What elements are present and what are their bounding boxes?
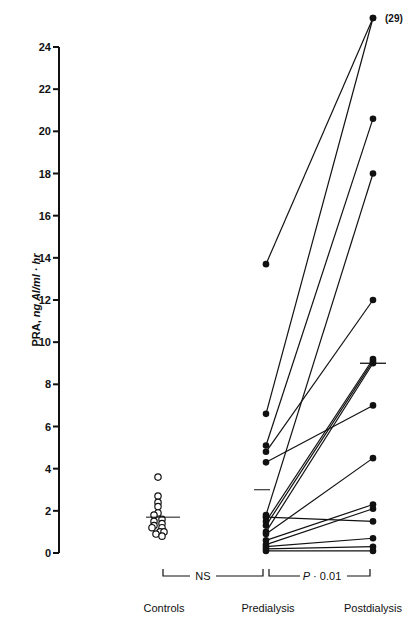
predialysis-point (263, 548, 270, 555)
predialysis-point (263, 261, 270, 268)
control-point (149, 525, 155, 531)
paired-lines (266, 18, 373, 551)
paired-line (266, 405, 373, 462)
predialysis-point (263, 411, 270, 418)
postdialysis-point (370, 505, 377, 512)
predialysis-point (263, 459, 270, 466)
paired-line (266, 300, 373, 452)
outlier-value-label: (29) (385, 13, 403, 24)
postdialysis-point (370, 15, 377, 22)
p-bracket-left (269, 569, 300, 576)
y-tick-label: 4 (45, 463, 52, 475)
y-tick-label: 24 (39, 41, 52, 53)
paired-line (266, 359, 373, 521)
postdialysis-point (370, 548, 377, 555)
predialysis-point (263, 514, 270, 521)
y-tick-label: 20 (39, 125, 51, 137)
p-bracket-right (347, 569, 370, 576)
ns-label: NS (195, 570, 210, 582)
paired-line (266, 18, 373, 414)
pra-chart: 024681012141618202224 PRA, ng AI/ml · hr… (0, 0, 413, 618)
paired-line (266, 547, 373, 549)
y-tick-label: 6 (45, 421, 51, 433)
postdialysis-point (370, 115, 377, 122)
p-value-label: P · 0.01 (303, 570, 342, 582)
p-value: 0.01 (320, 570, 341, 582)
y-tick-label: 0 (45, 547, 51, 559)
postdialysis-point (370, 402, 377, 409)
category-label-postdialysis: Postdialysis (344, 602, 403, 614)
y-axis-label: PRA, ng AI/ml · hr (30, 253, 42, 347)
postdialysis-point (370, 455, 377, 462)
p-operator: · (310, 570, 320, 582)
y-tick-label: 8 (45, 378, 51, 390)
paired-line (266, 174, 373, 516)
category-label-predialysis: Predialysis (241, 602, 295, 614)
comparison-brackets: NS P · 0.01 (163, 569, 370, 582)
ns-bracket-right (216, 569, 263, 576)
data-points (149, 15, 377, 554)
control-point (155, 493, 161, 499)
paired-line (266, 517, 373, 521)
control-point (159, 533, 165, 539)
postdialysis-point (370, 535, 377, 542)
control-point (155, 474, 161, 480)
predialysis-point (263, 531, 270, 538)
mean-markers (146, 363, 386, 517)
control-point (155, 503, 161, 509)
ns-bracket-left (163, 569, 190, 576)
y-tick-label: 22 (39, 83, 51, 95)
predialysis-point (263, 449, 270, 456)
postdialysis-point (370, 170, 377, 177)
paired-line (266, 361, 373, 525)
postdialysis-point (370, 518, 377, 525)
paired-line (266, 363, 373, 532)
y-axis-label-units: ng AI/ml · hr (30, 253, 42, 317)
y-axis-label-prefix: PRA, (30, 317, 42, 346)
y-tick-label: 16 (39, 210, 51, 222)
paired-line (266, 119, 373, 446)
predialysis-point (263, 522, 270, 529)
predialysis-point (263, 442, 270, 449)
postdialysis-point (370, 297, 377, 304)
y-tick-label: 18 (39, 168, 51, 180)
y-tick-label: 2 (45, 505, 51, 517)
category-label-controls: Controls (144, 602, 185, 614)
paired-line (266, 18, 373, 264)
